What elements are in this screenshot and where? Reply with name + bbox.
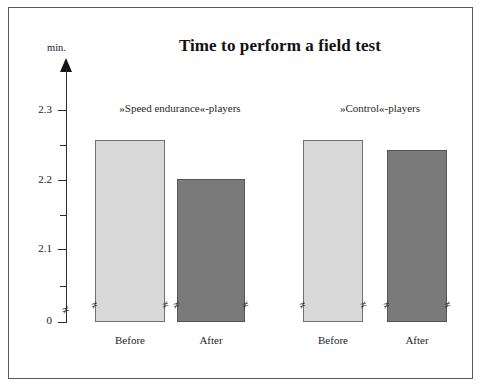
- y-tick-label-2-2: 2.2: [12, 173, 52, 185]
- group-label-speed-endurance: »Speed endurance«-players: [90, 102, 270, 114]
- bar-break-icon-left: ≠: [172, 298, 181, 311]
- plot-area: min. 2.3 2.2 2.1 0 ≠ »Speed endurance«-p…: [0, 0, 482, 388]
- bar-break-icon-left: ≠: [90, 298, 99, 311]
- y-tick-label-0: 0: [12, 314, 52, 326]
- axis-break-icon: ≠: [61, 302, 71, 316]
- bar-break-icon-left: ≠: [298, 298, 307, 311]
- y-axis-unit-label: min.: [47, 42, 66, 53]
- y-tick-label-2-3: 2.3: [12, 103, 52, 115]
- y-axis-line: [66, 68, 67, 322]
- bar-control-before[interactable]: ≠ ≠: [303, 140, 363, 322]
- figure-root: Time to perform a field test min. 2.3 2.…: [0, 0, 482, 388]
- bar-break-icon-right: ≠: [443, 298, 452, 311]
- y-tick-minor-2-25: [60, 145, 67, 146]
- group-label-control: »Control«-players: [305, 102, 455, 114]
- x-label-control-before: Before: [298, 334, 368, 346]
- x-label-speed-endurance-after: After: [176, 334, 246, 346]
- bar-control-after[interactable]: ≠ ≠: [387, 150, 447, 322]
- y-tick-major-0: [58, 322, 67, 323]
- x-label-speed-endurance-before: Before: [95, 334, 165, 346]
- y-tick-minor-2-15: [60, 215, 67, 216]
- y-tick-major-2-2: [58, 180, 67, 181]
- x-label-control-after: After: [382, 334, 452, 346]
- bar-break-icon-right: ≠: [241, 298, 250, 311]
- y-tick-major-2-1: [58, 249, 67, 250]
- y-tick-minor-2-05: [60, 286, 67, 287]
- y-tick-label-2-1: 2.1: [12, 242, 52, 254]
- y-tick-major-2-3: [58, 110, 67, 111]
- bar-break-icon-left: ≠: [382, 298, 391, 311]
- bar-break-icon-right: ≠: [161, 298, 170, 311]
- bar-speed-endurance-before[interactable]: ≠ ≠: [95, 140, 165, 322]
- bar-speed-endurance-after[interactable]: ≠ ≠: [177, 179, 245, 322]
- bar-break-icon-right: ≠: [359, 298, 368, 311]
